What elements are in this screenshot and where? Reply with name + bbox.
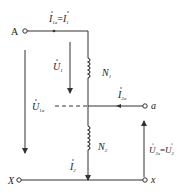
winding-N1-label: N1 — [101, 67, 111, 79]
coil-N2-icon — [88, 126, 90, 150]
i2a-arrow-icon — [116, 104, 121, 108]
current-label-i2: I2 — [69, 159, 76, 173]
terminal-A-node — [23, 29, 27, 33]
terminal-a-label: a — [151, 100, 156, 111]
terminal-X-label: X — [7, 175, 15, 186]
terminal-A: A — [11, 26, 27, 37]
terminal-A-label: A — [11, 26, 19, 37]
svg-text:U1: U1 — [53, 61, 63, 73]
terminal-x: x — [143, 174, 156, 185]
coil-N1-icon — [88, 58, 90, 78]
svg-text:I1a=I1: I1a=I1 — [48, 13, 69, 25]
autotransformer-diagram: A I1a=I1 N1 N2 U1 U1a — [0, 0, 186, 196]
svg-text:U2a=U2: U2a=U2 — [149, 145, 175, 156]
current-label-i2a: I2a — [117, 87, 127, 101]
svg-text:I2a: I2a — [117, 89, 127, 101]
i1a-arrow-dot — [53, 30, 56, 33]
terminal-X: X — [7, 175, 21, 186]
voltage-label-u2a: U2a=U2 — [149, 143, 175, 156]
terminal-a-node — [143, 104, 147, 108]
voltage-label-u1a: U1a — [32, 99, 45, 113]
svg-text:U1a: U1a — [32, 101, 45, 113]
terminal-X-node — [17, 178, 21, 182]
svg-text:I2: I2 — [69, 161, 76, 173]
terminal-a: a — [143, 100, 156, 111]
current-label-i1a: I1a=I1 — [48, 11, 69, 25]
voltage-label-u1: U1 — [53, 59, 63, 73]
terminal-x-label: x — [150, 174, 156, 185]
winding-N2-label: N2 — [97, 141, 108, 153]
circuit-svg: A I1a=I1 N1 N2 U1 U1a — [0, 0, 186, 196]
terminal-x-node — [143, 178, 147, 182]
